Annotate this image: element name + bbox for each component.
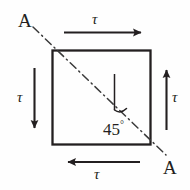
- tau-label-right: τ: [172, 90, 177, 105]
- square-element: [53, 51, 151, 145]
- section-label-a-top-left: A: [18, 11, 32, 30]
- shear-stress-diagram: τ τ τ τ A A 45°: [0, 0, 190, 190]
- tau-label-bottom: τ: [94, 167, 99, 182]
- angle-value: 45: [103, 120, 120, 139]
- degree-symbol-icon: °: [120, 119, 124, 130]
- tau-label-top: τ: [92, 12, 97, 27]
- tau-label-left: τ: [17, 90, 22, 105]
- section-label-a-bottom-right: A: [163, 158, 177, 177]
- angle-annotation: 45°: [103, 120, 124, 138]
